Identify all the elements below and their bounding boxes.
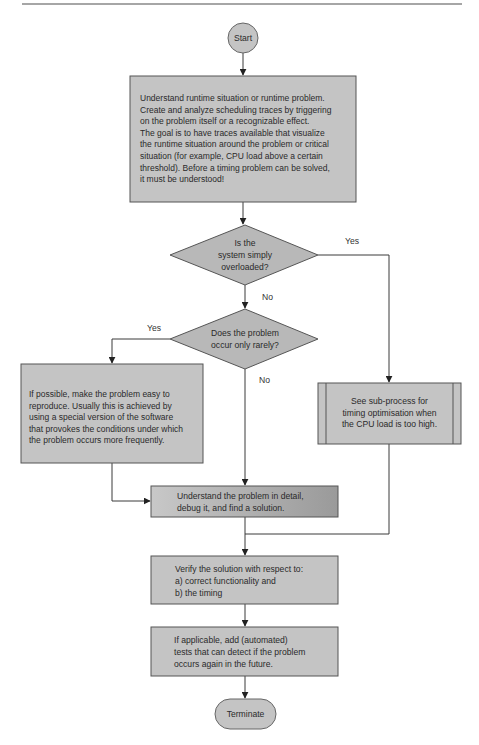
subprocess-timing-text: See sub-process for timing optimisation … [326, 396, 453, 431]
edge-rarely-yes-to-reproduce [112, 339, 170, 363]
edge-reproduce-to-debug [112, 463, 150, 501]
edge-overloaded-yes-to-subprocess [318, 255, 389, 382]
edge-label-rarely-no: No [259, 375, 270, 385]
decision-rarely-text: Does the problem occur only rarely? [195, 327, 295, 351]
reproduce-text: If possible, make the problem easy to re… [29, 389, 204, 447]
edge-label-rarely-yes: Yes [147, 323, 161, 333]
decision-overloaded-text: Is the system simply overloaded? [195, 237, 295, 273]
debug-text: Understand the problem in detail, debug … [177, 490, 337, 514]
edge-label-overloaded-yes: Yes [345, 236, 359, 246]
tests-text: If applicable, add (automated) tests tha… [174, 634, 339, 670]
start-label: Start [228, 32, 258, 44]
verify-text: Verify the solution with respect to: a) … [175, 563, 335, 599]
understand-runtime-text: Understand runtime situation or runtime … [140, 93, 355, 186]
terminate-label: Terminate [215, 708, 276, 720]
edge-label-overloaded-no: No [262, 292, 273, 302]
